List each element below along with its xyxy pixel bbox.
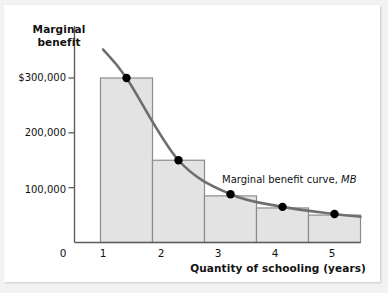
y-tick-label-300000: $300,000: [8, 72, 66, 83]
y-axis-title-line1: Marginal: [22, 23, 96, 36]
bar-4: [257, 208, 309, 243]
x-axis-title: Quantity of schooling (years): [148, 262, 366, 274]
bar-5: [309, 215, 361, 242]
curve-annotation-symbol: MB: [341, 174, 357, 185]
data-point-1: [122, 74, 130, 82]
bar-3: [205, 196, 257, 243]
data-point-5: [330, 210, 338, 218]
bars-group: [101, 78, 361, 243]
x-tick-label-0: 0: [53, 247, 73, 259]
figure-screenshot: Marginal benefit Quantity of schooling (…: [0, 0, 388, 293]
x-tick-label-3: 3: [208, 247, 228, 259]
y-axis-title: Marginal benefit: [22, 23, 96, 49]
x-tick-label-5: 5: [322, 247, 342, 259]
y-tick-label-100000: 100,000: [8, 184, 66, 195]
data-point-3: [226, 190, 234, 198]
data-point-4: [278, 203, 286, 211]
x-tick-label-2: 2: [151, 247, 171, 259]
y-tick-label-200000: 200,000: [8, 127, 66, 138]
bar-1: [101, 78, 153, 243]
y-axis-title-line2: benefit: [22, 36, 96, 49]
data-point-2: [174, 156, 182, 164]
bar-2: [153, 160, 205, 242]
curve-annotation: Marginal benefit curve, MB: [222, 174, 357, 185]
curve-annotation-text: Marginal benefit curve,: [222, 174, 341, 185]
x-tick-label-4: 4: [265, 247, 285, 259]
x-tick-label-1: 1: [93, 247, 113, 259]
